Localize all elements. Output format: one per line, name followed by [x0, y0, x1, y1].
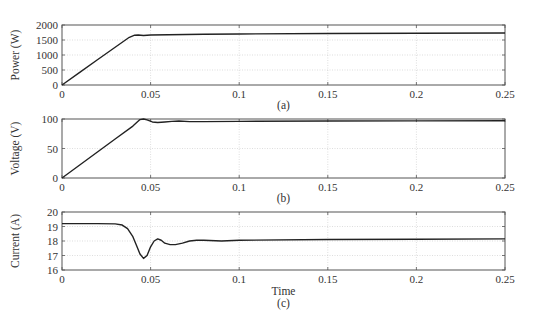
x-tick-label: 0.1	[232, 88, 246, 100]
current-caption: (c)	[277, 297, 290, 310]
y-tick-label: 17	[47, 250, 59, 262]
x-tick-label: 0.05	[141, 273, 161, 285]
y-tick-label: 18	[47, 235, 59, 247]
figure: 00.050.10.150.20.250500100015002000 Powe…	[0, 0, 535, 322]
x-tick-label: 0.05	[141, 88, 161, 100]
voltage-line	[62, 119, 505, 178]
x-tick-label: 0	[59, 273, 65, 285]
y-tick-label: 0	[53, 172, 59, 184]
power-line	[62, 33, 505, 85]
x-tick-label: 0.05	[141, 181, 161, 193]
y-tick-label: 50	[47, 143, 59, 155]
x-tick-label: 0.15	[318, 181, 338, 193]
x-tick-label: 0	[59, 88, 65, 100]
y-tick-label: 0	[53, 79, 59, 91]
voltage-plot-frame	[62, 119, 505, 178]
y-tick-label: 1000	[36, 49, 59, 61]
y-tick-label: 19	[47, 221, 59, 233]
y-tick-label: 2000	[36, 19, 59, 31]
current-ticks: 00.050.10.150.20.251617181920	[47, 206, 515, 285]
panel-power: 00.050.10.150.20.250500100015002000 Powe…	[9, 19, 515, 112]
voltage-ticks: 00.050.10.150.20.25050100	[42, 113, 516, 193]
power-caption: (a)	[277, 99, 290, 112]
y-tick-label: 500	[42, 64, 59, 76]
x-tick-label: 0.1	[232, 181, 246, 193]
y-tick-label: 16	[47, 264, 59, 276]
x-tick-label: 0.2	[410, 88, 424, 100]
x-tick-label: 0.2	[410, 181, 424, 193]
y-tick-label: 20	[47, 206, 59, 218]
x-tick-label: 0.1	[232, 273, 246, 285]
current-plot-frame	[62, 212, 505, 270]
x-tick-label: 0.25	[495, 273, 515, 285]
x-tick-label: 0.15	[318, 88, 338, 100]
panel-voltage: 00.050.10.150.20.25050100 Voltage (V) (b…	[9, 113, 515, 205]
x-tick-label: 0.15	[318, 273, 338, 285]
x-tick-label: 0	[59, 181, 65, 193]
y-tick-label: 1500	[36, 34, 59, 46]
x-tick-label: 0.25	[495, 88, 515, 100]
panel-current: 00.050.10.150.20.251617181920 Current (A…	[9, 206, 515, 310]
y-tick-label: 100	[42, 113, 59, 125]
voltage-grid	[62, 119, 505, 178]
power-ticks: 00.050.10.150.20.250500100015002000	[36, 19, 515, 100]
voltage-caption: (b)	[277, 192, 291, 205]
current-grid	[62, 212, 505, 270]
current-ylabel: Current (A)	[9, 214, 22, 268]
current-line	[62, 224, 505, 259]
figure-canvas: 00.050.10.150.20.250500100015002000 Powe…	[0, 0, 535, 322]
x-tick-label: 0.25	[495, 181, 515, 193]
voltage-ylabel: Voltage (V)	[9, 121, 22, 175]
power-ylabel: Power (W)	[9, 29, 22, 80]
x-tick-label: 0.2	[410, 273, 424, 285]
current-xlabel: Time	[272, 285, 296, 297]
